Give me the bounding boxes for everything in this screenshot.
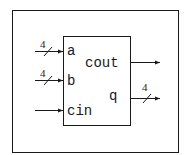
input-a-label: a: [67, 43, 75, 59]
input-b-label: b: [67, 73, 75, 89]
output-q-width: 4: [142, 81, 148, 93]
adder-block-diagram: 4 a 4 b cin cout 4 q: [0, 0, 186, 155]
output-cout-label: cout: [85, 55, 119, 71]
input-b-width: 4: [40, 67, 46, 79]
output-q-label: q: [109, 88, 117, 104]
input-a-width: 4: [40, 38, 46, 50]
input-cin-label: cin: [67, 103, 92, 119]
